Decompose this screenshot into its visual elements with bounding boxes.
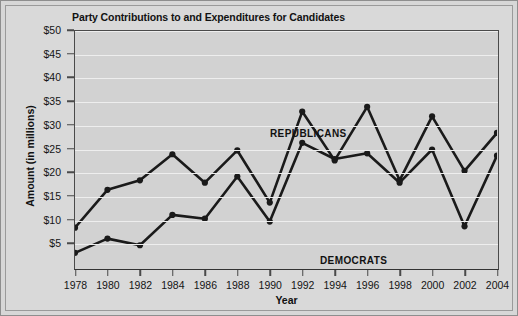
y-tick-label: $40 <box>43 71 61 83</box>
y-tick-label: $45 <box>43 48 61 60</box>
gridline <box>75 244 498 245</box>
gridline <box>75 221 498 222</box>
data-point <box>364 150 370 156</box>
y-tick-label: $10 <box>43 214 61 226</box>
x-tick-mark <box>270 270 272 276</box>
x-tick-label: 1998 <box>388 279 411 291</box>
data-point <box>461 223 467 229</box>
gridline <box>75 102 498 103</box>
y-tick-mark <box>67 219 74 221</box>
x-tick-mark <box>205 270 207 276</box>
x-tick-mark <box>140 270 142 276</box>
y-tick-label: $25 <box>43 143 61 155</box>
chart-figure: Party Contributions to and Expenditures … <box>0 0 518 316</box>
data-point <box>299 140 305 146</box>
y-tick-label: $50 <box>43 24 61 36</box>
x-tick-mark <box>464 270 466 276</box>
plot-area: REPUBLICANS DEMOCRATS <box>74 30 499 270</box>
x-axis-title: Year <box>74 294 499 306</box>
x-tick-label: 2004 <box>486 279 509 291</box>
data-point <box>169 212 175 218</box>
x-tick-label: 1988 <box>226 279 249 291</box>
x-tick-mark <box>334 270 336 276</box>
data-point <box>299 108 305 114</box>
x-tick-label: 1986 <box>194 279 217 291</box>
x-tick-mark <box>75 270 77 276</box>
gridline <box>75 31 498 32</box>
y-tick-label: $20 <box>43 166 61 178</box>
data-point <box>267 199 273 205</box>
x-tick-label: 1990 <box>259 279 282 291</box>
chart-figure-inner: Party Contributions to and Expenditures … <box>5 5 513 311</box>
data-point <box>104 187 110 193</box>
data-point <box>429 113 435 119</box>
x-tick-label: 1984 <box>161 279 184 291</box>
y-tick-label: $5 <box>49 237 61 249</box>
x-tick-label: 1996 <box>356 279 379 291</box>
x-tick-label: 2002 <box>453 279 476 291</box>
y-tick-mark <box>67 53 74 55</box>
y-tick-mark <box>67 195 74 197</box>
x-tick-mark <box>237 270 239 276</box>
x-tick-mark <box>367 270 369 276</box>
data-point <box>137 177 143 183</box>
gridline <box>75 150 498 151</box>
gridline <box>75 55 498 56</box>
x-tick-mark <box>399 270 401 276</box>
x-tick-label: 2000 <box>421 279 444 291</box>
x-tick-label: 1994 <box>324 279 347 291</box>
data-point <box>397 180 403 186</box>
gridline <box>75 197 498 198</box>
gridline <box>75 126 498 127</box>
series-label-democrats: DEMOCRATS <box>320 255 387 266</box>
x-tick-mark <box>432 270 434 276</box>
series-label-republicans: REPUBLICANS <box>270 128 347 139</box>
x-tick-label: 1978 <box>64 279 87 291</box>
data-point <box>104 236 110 242</box>
x-tick-label: 1982 <box>129 279 152 291</box>
x-tick-label: 1980 <box>96 279 119 291</box>
y-tick-mark <box>67 77 74 79</box>
data-point <box>332 156 338 162</box>
chart-title: Party Contributions to and Expenditures … <box>72 11 345 23</box>
x-tick-mark <box>172 270 174 276</box>
gridline <box>75 173 498 174</box>
y-tick-mark <box>67 148 74 150</box>
x-tick-mark <box>497 270 499 276</box>
data-point <box>234 173 240 179</box>
y-tick-mark <box>67 124 74 126</box>
y-tick-mark <box>67 243 74 245</box>
gridline <box>75 78 498 79</box>
data-point <box>202 180 208 186</box>
data-point <box>169 151 175 157</box>
data-point <box>494 153 497 159</box>
y-tick-label: $15 <box>43 190 61 202</box>
y-axis-ticks: $5$10$15$20$25$30$35$40$45$50 <box>6 30 74 270</box>
y-tick-label: $35 <box>43 95 61 107</box>
y-tick-mark <box>67 29 74 31</box>
y-tick-label: $30 <box>43 119 61 131</box>
y-tick-mark <box>67 100 74 102</box>
data-point <box>364 104 370 110</box>
x-tick-mark <box>107 270 109 276</box>
y-tick-mark <box>67 171 74 173</box>
x-tick-label: 1992 <box>291 279 314 291</box>
x-tick-mark <box>302 270 304 276</box>
